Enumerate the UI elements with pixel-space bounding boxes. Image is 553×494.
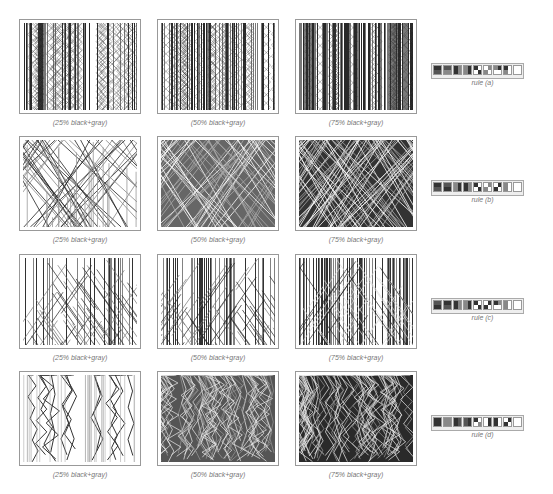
rule-icon-strip	[431, 415, 524, 431]
rule-label: rule (a)	[431, 79, 534, 86]
automaton-panel	[295, 19, 417, 114]
rule-cell-icon	[493, 417, 502, 427]
automaton-panel	[157, 19, 279, 114]
panel-caption: (75% black+gray)	[294, 119, 418, 126]
rule-cell-icon	[453, 182, 462, 192]
automaton-pattern-image	[299, 23, 413, 110]
automaton-pattern-image	[23, 23, 137, 110]
rule-cell-icon	[503, 182, 512, 192]
rule-cell-icon	[443, 65, 452, 75]
panel-caption: (50% black+gray)	[156, 354, 280, 361]
panel-caption: (75% black+gray)	[294, 471, 418, 478]
rule-cell-icon	[483, 65, 492, 75]
automaton-panel	[295, 371, 417, 466]
rule-cell-icon	[503, 300, 512, 310]
rule-cell-icon	[503, 65, 512, 75]
figure-row-b: (25% black+gray)(50% black+gray)(75% bla…	[0, 136, 553, 253]
automaton-panel	[19, 19, 141, 114]
rule-cell-icon	[503, 417, 512, 427]
rule-cell-icon	[463, 417, 472, 427]
panel-caption: (25% black+gray)	[18, 354, 142, 361]
rule-label: rule (b)	[431, 196, 534, 203]
figure-row-a: (25% black+gray)(50% black+gray)(75% bla…	[0, 19, 553, 136]
rule-cell-icon	[483, 417, 492, 427]
automaton-pattern-image	[23, 375, 137, 462]
figure-row-d: (25% black+gray)(50% black+gray)(75% bla…	[0, 371, 553, 488]
automaton-pattern-image	[23, 258, 137, 345]
automaton-pattern-image	[161, 23, 275, 110]
rule-cell-icon	[473, 182, 482, 192]
panel-caption: (25% black+gray)	[18, 236, 142, 243]
panel-caption: (75% black+gray)	[294, 354, 418, 361]
figure-row-c: (25% black+gray)(50% black+gray)(75% bla…	[0, 254, 553, 371]
rule-cell-icon	[463, 300, 472, 310]
rule-cell-icon	[443, 300, 452, 310]
rule-cell-icon	[433, 182, 442, 192]
panel-caption: (25% black+gray)	[18, 119, 142, 126]
rule-icon-strip	[431, 63, 524, 79]
automaton-panel	[295, 136, 417, 231]
rule-label: rule (d)	[431, 431, 534, 438]
rule-cell-icon	[473, 417, 482, 427]
rule-cell-icon	[463, 65, 472, 75]
automaton-pattern-image	[299, 258, 413, 345]
rule-cell-icon	[513, 417, 522, 427]
rule-cell-icon	[433, 417, 442, 427]
automaton-pattern-image	[161, 140, 275, 227]
automaton-pattern-image	[299, 140, 413, 227]
automaton-pattern-image	[161, 375, 275, 462]
panel-caption: (50% black+gray)	[156, 119, 280, 126]
panel-caption: (75% black+gray)	[294, 236, 418, 243]
rule-cell-icon	[483, 300, 492, 310]
rule-cell-icon	[433, 300, 442, 310]
rule-cell-icon	[513, 182, 522, 192]
rule-cell-icon	[453, 65, 462, 75]
automaton-panel	[19, 371, 141, 466]
automaton-panel	[295, 254, 417, 349]
rule-cell-icon	[493, 300, 502, 310]
automaton-panel	[19, 254, 141, 349]
rule-label: rule (c)	[431, 314, 534, 321]
rule-cell-icon	[443, 182, 452, 192]
rule-icon-strip	[431, 298, 524, 314]
rule-cell-icon	[473, 65, 482, 75]
automaton-pattern-image	[299, 375, 413, 462]
panel-caption: (50% black+gray)	[156, 236, 280, 243]
rule-cell-icon	[433, 65, 442, 75]
automaton-panel	[157, 254, 279, 349]
automaton-panel	[19, 136, 141, 231]
rule-cell-icon	[473, 300, 482, 310]
rule-cell-icon	[443, 417, 452, 427]
automaton-panel	[157, 136, 279, 231]
rule-cell-icon	[453, 417, 462, 427]
rule-cell-icon	[513, 65, 522, 75]
rule-cell-icon	[493, 65, 502, 75]
rule-cell-icon	[483, 182, 492, 192]
rule-cell-icon	[463, 182, 472, 192]
panel-caption: (50% black+gray)	[156, 471, 280, 478]
panel-caption: (25% black+gray)	[18, 471, 142, 478]
automaton-panel	[157, 371, 279, 466]
rule-icon-strip	[431, 180, 524, 196]
rule-cell-icon	[493, 182, 502, 192]
rule-cell-icon	[453, 300, 462, 310]
rule-cell-icon	[513, 300, 522, 310]
automaton-pattern-image	[161, 258, 275, 345]
automaton-pattern-image	[23, 140, 137, 227]
